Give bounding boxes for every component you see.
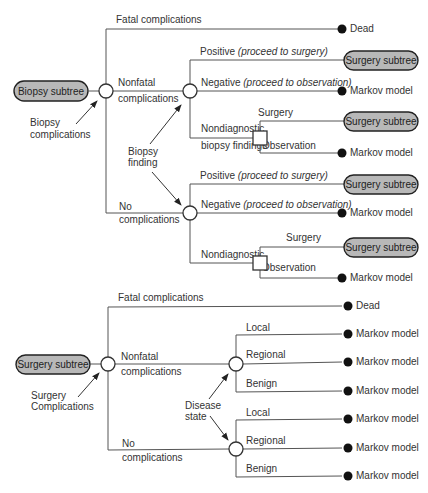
nonfatal-finding-subtree: Positive (proceed to surgery) Surgery su… <box>183 46 418 158</box>
biopsy-finding-annot-1: Biopsy <box>128 146 158 157</box>
markov-label: Markov model <box>356 442 419 453</box>
positive-label: Positive (proceed to surgery) <box>200 170 328 181</box>
terminal-node <box>344 358 353 367</box>
decision-node <box>253 256 267 270</box>
markov-label: Markov model <box>350 272 413 283</box>
positive-label: Positive (proceed to surgery) <box>200 46 328 57</box>
chance-node <box>99 84 113 98</box>
no-complications-branch <box>108 449 229 450</box>
biopsy-complications-annot-2: complications <box>30 129 91 140</box>
benign-branch <box>236 476 342 477</box>
disease-state-annot-1: Disease <box>185 400 222 411</box>
local-label: Local <box>246 407 270 418</box>
surgery-label: Surgery <box>258 107 293 118</box>
markov-label: Markov model <box>356 413 419 424</box>
chance-node <box>229 357 243 371</box>
annotation-arrow <box>152 172 181 205</box>
markov-label: Markov model <box>350 85 413 96</box>
markov-label: Markov model <box>350 207 413 218</box>
annotation-arrow <box>210 416 228 440</box>
surgery-subtree-pill[interactable]: Surgery subtree <box>344 112 418 131</box>
biopsy-subtree-label: Biopsy subtree <box>18 86 85 97</box>
biopsy-tree: Biopsy subtree Fatal complications Dead … <box>14 14 418 283</box>
nonfatal-label-1: Nonfatal <box>118 77 155 88</box>
chance-node <box>101 357 115 371</box>
chance-node <box>183 84 197 98</box>
pill-label: Surgery subtree <box>345 55 417 66</box>
no-comp-label-2: complications <box>122 452 183 463</box>
local-branch <box>236 419 342 420</box>
benign-branch <box>236 391 342 392</box>
markov-label: Markov model <box>356 328 419 339</box>
terminal-node <box>344 387 353 396</box>
chance-node <box>183 206 197 220</box>
regional-branch <box>243 362 342 364</box>
pill-label: Surgery subtree <box>345 242 417 253</box>
observation-label: Observation <box>262 140 316 151</box>
regional-branch <box>243 448 342 449</box>
chance-node <box>229 442 243 456</box>
negative-label: Negative (proceed to observation) <box>201 199 352 210</box>
terminal-node <box>344 302 353 311</box>
terminal-node <box>344 472 353 481</box>
nocomp-finding-subtree: Positive (proceed to surgery) Surgery su… <box>183 170 418 283</box>
surgery-subtree-label: Surgery subtree <box>17 359 89 370</box>
no-comp-label-1: No <box>122 438 135 449</box>
nonfatal-label-2: complications <box>121 366 182 377</box>
decision-tree-diagram: Biopsy subtree Fatal complications Dead … <box>0 0 428 493</box>
nonfatal-label-2: complications <box>118 93 179 104</box>
local-branch <box>236 334 342 335</box>
terminal-node <box>344 330 353 339</box>
surgery-subtree-root[interactable]: Surgery subtree <box>16 355 90 374</box>
surgery-tree: Surgery subtree Fatal complications Dead… <box>16 292 419 481</box>
markov-label: Markov model <box>350 147 413 158</box>
surgery-subtree-pill[interactable]: Surgery subtree <box>344 51 418 70</box>
markov-label: Markov model <box>356 470 419 481</box>
observation-label: Observation <box>262 262 316 273</box>
regional-label: Regional <box>246 349 285 360</box>
surgery-label: Surgery <box>286 232 321 243</box>
fatal-label: Fatal complications <box>118 292 204 303</box>
regional-label: Regional <box>246 435 285 446</box>
local-label: Local <box>246 322 270 333</box>
negative-label: Negative (proceed to observation) <box>201 77 352 88</box>
nonfatal-label-1: Nonfatal <box>121 351 158 362</box>
surgery-subtree-pill[interactable]: Surgery subtree <box>344 238 418 257</box>
terminal-node <box>338 87 347 96</box>
dead-label: Dead <box>350 23 374 34</box>
nonfatal-disease-subtree: Local Markov model Regional Markov model… <box>229 322 419 396</box>
biopsy-finding-annot-2: finding <box>128 157 157 168</box>
markov-label: Markov model <box>356 385 419 396</box>
terminal-node <box>338 149 347 158</box>
nocomp-disease-subtree: Local Markov model Regional Markov model… <box>229 407 419 481</box>
surgery-complications-annot-1: Surgery <box>31 390 66 401</box>
dead-label: Dead <box>356 300 380 311</box>
surgery-complications-annot-2: Complications <box>31 401 94 412</box>
markov-label: Markov model <box>356 356 419 367</box>
annotation-arrow <box>209 374 228 399</box>
surgery-subtree-pill[interactable]: Surgery subtree <box>344 175 418 194</box>
biopsy-subtree-root[interactable]: Biopsy subtree <box>14 81 88 101</box>
terminal-node <box>344 444 353 453</box>
fatal-label: Fatal complications <box>116 14 202 25</box>
benign-label: Benign <box>246 463 277 474</box>
no-comp-label-2: complications <box>119 214 180 225</box>
terminal-node <box>338 25 347 34</box>
decision-node <box>253 131 267 145</box>
annotation-arrow <box>78 373 99 397</box>
pill-label: Surgery subtree <box>345 179 417 190</box>
terminal-node <box>338 209 347 218</box>
annotation-arrow <box>150 105 181 144</box>
fatal-branch <box>108 306 342 307</box>
biopsy-complications-annot-1: Biopsy <box>30 117 60 128</box>
annotation-arrow <box>76 101 97 124</box>
disease-state-annot-2: state <box>185 411 207 422</box>
benign-label: Benign <box>246 378 277 389</box>
terminal-node <box>344 415 353 424</box>
terminal-node <box>338 274 347 283</box>
no-comp-label-1: No <box>119 201 132 212</box>
pill-label: Surgery subtree <box>345 116 417 127</box>
